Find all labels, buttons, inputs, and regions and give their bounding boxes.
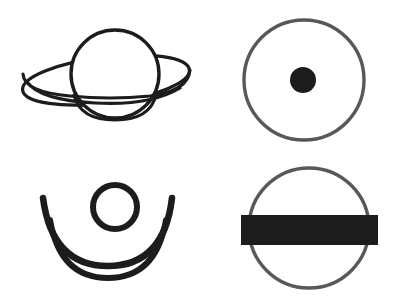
sun-center-dot bbox=[290, 67, 316, 93]
sun-dot-drawing bbox=[200, 0, 401, 154]
symbol-barred-circle: Circle crossed by solid black bar bbox=[200, 154, 401, 308]
barred-circle-bar bbox=[241, 215, 378, 245]
figure-sheet: Ringed planet (Saturn) Circle with cente… bbox=[0, 0, 401, 308]
crescent-top-circle bbox=[93, 185, 137, 229]
symbol-crescent-bowl: Circle above double crescent bowl bbox=[0, 154, 200, 308]
barred-circle-drawing bbox=[200, 154, 401, 308]
saturn-drawing bbox=[0, 0, 200, 154]
symbol-sun-dot: Circle with center dot (Sun symbol) bbox=[200, 0, 401, 154]
crescent-bowl-drawing bbox=[0, 154, 200, 308]
symbol-saturn: Ringed planet (Saturn) bbox=[0, 0, 200, 154]
